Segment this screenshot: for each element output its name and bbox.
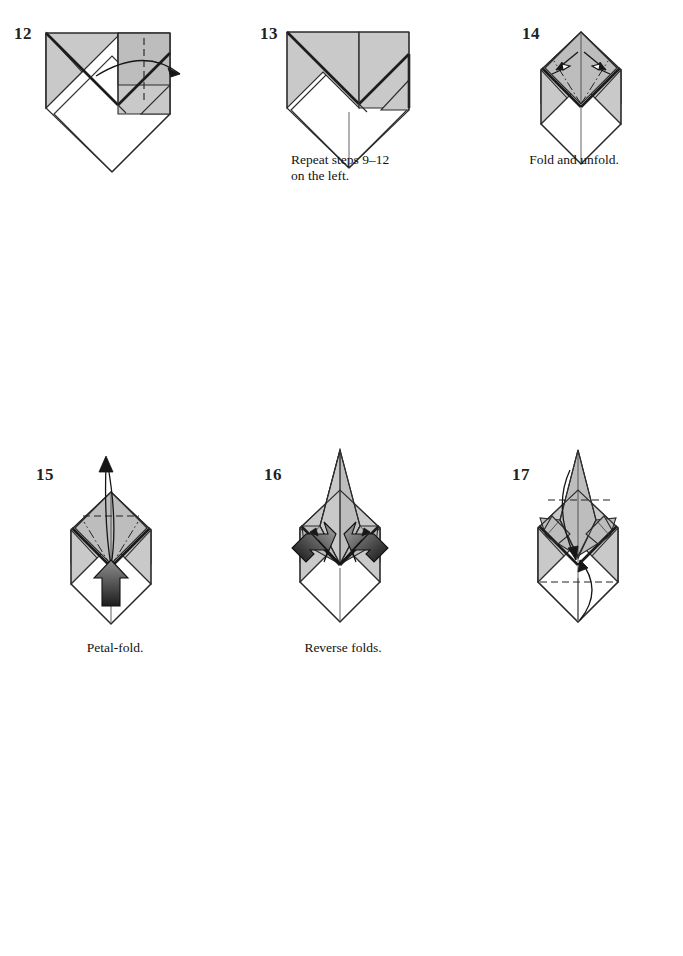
step-cell-13: 13 Repeat steps 9–12 on the left. [228,0,456,220]
step-cell-18: 18 [0,470,228,705]
step-number-12: 12 [14,24,32,44]
step-cell-12: 12 [0,0,228,220]
step-caption-13: Repeat steps 9–12 on the left. [291,152,471,184]
step-cell-19: 19 [228,470,456,705]
step-cell-15: 15 [0,222,228,452]
step-figure-14 [526,28,636,168]
step-cell-17: 17 [456,222,683,452]
step-cell-21: 21 T [0,710,228,956]
step-cell-23: 23 [456,710,683,956]
step-caption-14: Fold and unfold. [484,152,664,168]
step-figure-13 [283,28,423,168]
step-cell-20: 20 [456,470,683,705]
step-cell-16: 16 [228,222,456,452]
step-cell-14: 14 [456,0,683,220]
step-number-13: 13 [260,24,278,44]
step-cell-22: 22 [228,710,456,956]
origami-diagram-page: 12 [0,0,683,956]
step-figure-12 [40,28,180,168]
